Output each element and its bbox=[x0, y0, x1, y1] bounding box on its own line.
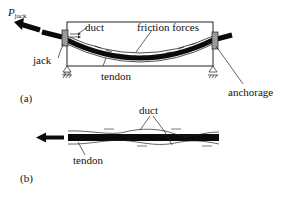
roller-support bbox=[208, 66, 218, 78]
prestressing-friction-diagram: Pjack duct friction forces jack tendon a… bbox=[0, 0, 292, 197]
tendon-label-b: tendon bbox=[73, 154, 103, 166]
pjack-label: Pjack bbox=[7, 6, 27, 20]
panel-a: Pjack duct friction forces jack tendon a… bbox=[7, 6, 273, 105]
duct-label-b: duct bbox=[139, 104, 158, 116]
pull-arrow-head bbox=[36, 133, 46, 143]
panel-a-caption: (a) bbox=[20, 92, 33, 105]
anchorage-plate bbox=[212, 32, 218, 49]
friction-forces-label: friction forces bbox=[137, 21, 199, 33]
tendon-label: tendon bbox=[101, 70, 131, 82]
duct-label: duct bbox=[85, 21, 104, 33]
jack-plate bbox=[62, 30, 68, 46]
pull-arrow-shaft bbox=[44, 136, 64, 140]
pin-support bbox=[62, 66, 72, 78]
tendon-left-end bbox=[42, 32, 62, 37]
jack-label: jack bbox=[32, 54, 52, 66]
anchorage-label: anchorage bbox=[228, 86, 273, 98]
pjack-arrow-shaft bbox=[20, 24, 40, 30]
tendon-curve bbox=[67, 40, 213, 58]
panel-b-caption: (b) bbox=[20, 172, 33, 185]
panel-b: duct tendon (b) bbox=[20, 104, 219, 185]
